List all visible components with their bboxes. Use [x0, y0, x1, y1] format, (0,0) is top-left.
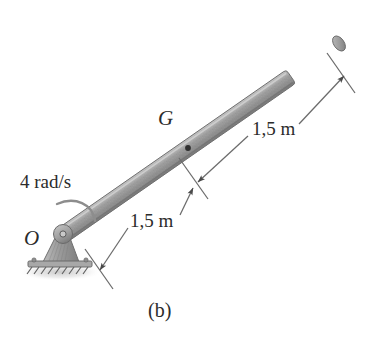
dimension-label-lower: 1,5 m — [130, 211, 173, 230]
center-of-mass-dot — [185, 145, 191, 151]
angular-velocity-label: 4 rad/s — [20, 172, 71, 191]
ground-plate — [28, 261, 92, 267]
pin-center — [60, 231, 66, 237]
pivot-point-label: O — [24, 228, 39, 249]
figure-caption: (b) — [148, 300, 171, 320]
plate-bolt-right — [84, 258, 88, 262]
rod-end-cap — [330, 34, 348, 54]
dimension-arrow-upper — [299, 76, 344, 124]
rod-highlight — [57, 73, 286, 232]
extension-line-tip — [327, 53, 355, 93]
dimension-arrow-lower-inner — [180, 188, 193, 215]
rod — [54, 34, 348, 245]
dimension-label-upper: 1,5 m — [252, 119, 295, 138]
figure-container: 4 rad/s O G 1,5 m 1,5 m (b) — [0, 0, 373, 342]
plate-bolt-left — [32, 258, 36, 262]
center-of-mass-label: G — [158, 108, 173, 129]
extension-line-center — [179, 158, 208, 199]
rod-lower-shade — [64, 83, 293, 242]
rod-texture — [54, 70, 296, 245]
dimension-arrow-lower — [100, 228, 128, 270]
